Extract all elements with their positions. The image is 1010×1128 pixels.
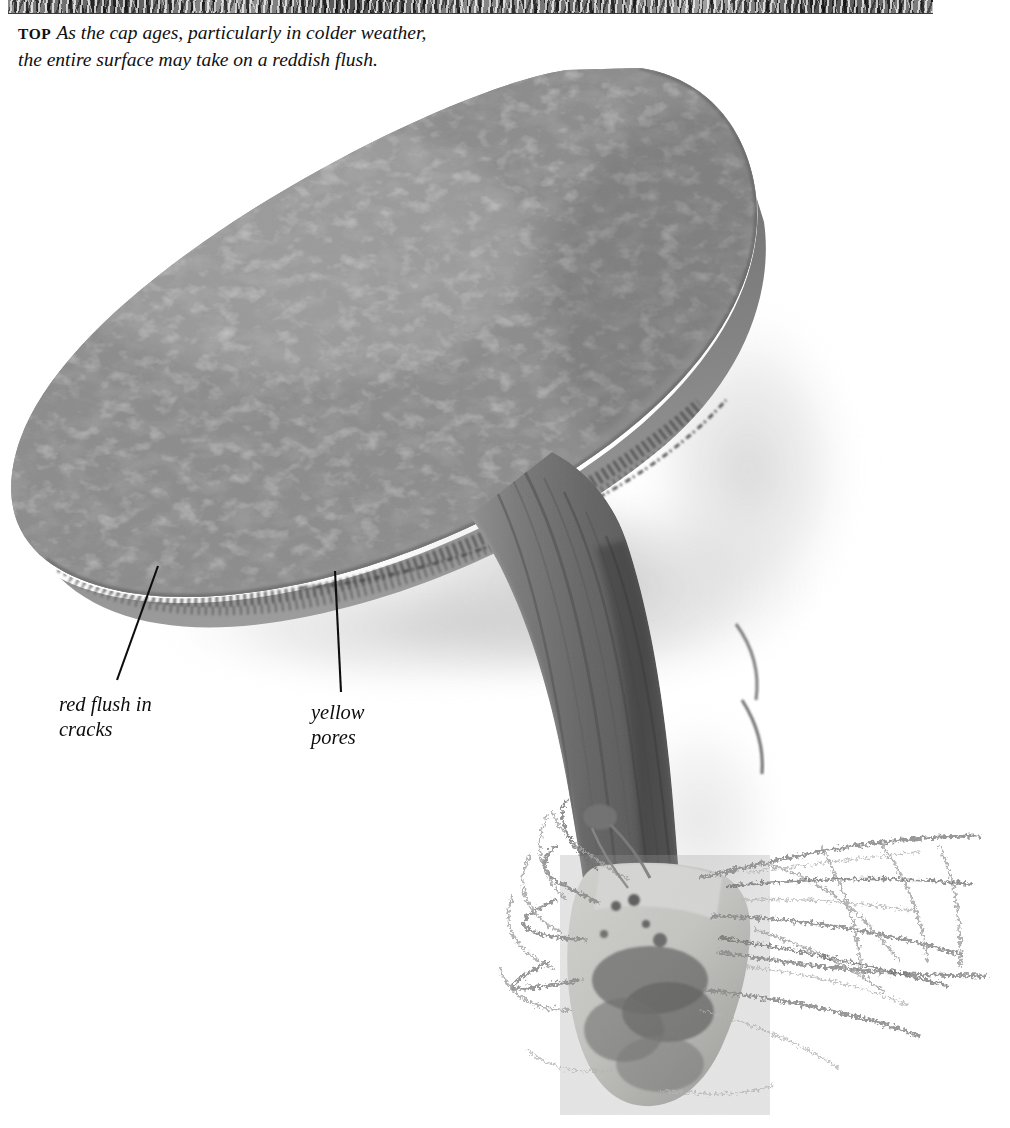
annotation-label-red-flush: red flush in cracks: [59, 692, 152, 742]
leader-line-yellow-pores: [335, 571, 341, 692]
book-page: TOPAs the cap ages, particularly in cold…: [0, 0, 1010, 1128]
annotation-label-yellow-pores: yellow pores: [311, 700, 365, 750]
leader-line-red-flush: [117, 566, 158, 680]
leader-lines: [0, 0, 1010, 1128]
